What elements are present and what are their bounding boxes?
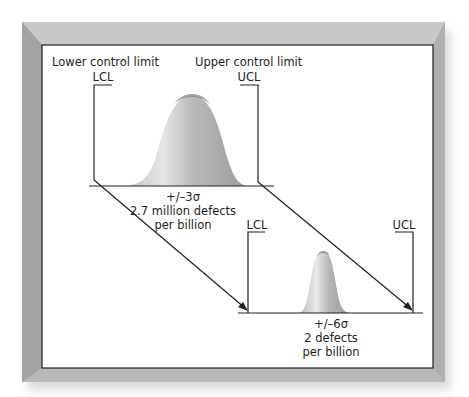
bottom-sigma-label: +/–6σ [314,317,348,331]
six-sigma-diagram: Lower control limit Upper control limit … [0,0,469,397]
upper-control-limit-label: Upper control limit [195,55,302,69]
bottom-ucl-label: UCL [393,218,416,232]
top-lcl-label: LCL [93,70,114,84]
lower-control-limit-label: Lower control limit [52,55,159,69]
bottom-defects-line1: 2 defects [304,331,357,345]
bottom-defects-line2: per billion [302,345,359,359]
diagram-panel [42,45,433,368]
top-defects-line2: per billion [154,218,211,232]
bottom-lcl-label: LCL [247,218,268,232]
top-defects-line1: 2.7 million defects [130,204,236,218]
top-sigma-label: +/–3σ [166,190,200,204]
top-ucl-label: UCL [238,70,261,84]
